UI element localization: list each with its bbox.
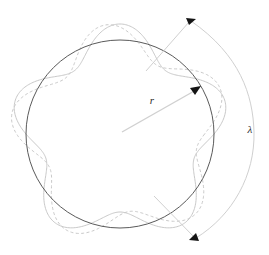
wavelength-bracket-tick-bottom — [154, 196, 194, 237]
radius-arrowhead-icon — [190, 86, 201, 95]
standing-wave-diagram: r λ — [0, 0, 269, 255]
radius-arrow-shaft — [122, 90, 196, 132]
orbit-circle — [26, 40, 214, 228]
figure-container: r λ — [0, 0, 269, 255]
wavelength-arrowhead-bottom-icon — [189, 233, 199, 241]
wavelength-label: λ — [247, 123, 253, 135]
standing-wave-solid — [14, 24, 226, 228]
wavelength-bracket-arc — [191, 21, 254, 238]
radius-label: r — [150, 94, 155, 106]
standing-wave-dashed — [12, 25, 222, 234]
